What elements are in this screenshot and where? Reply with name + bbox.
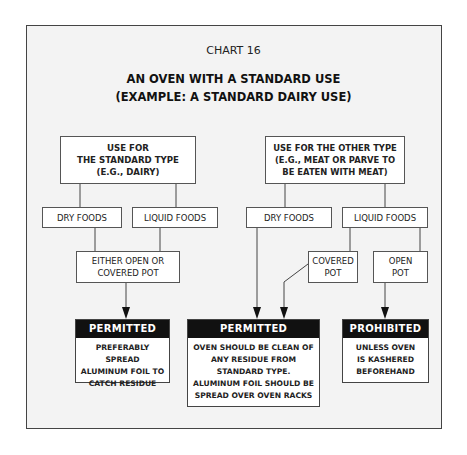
prohibited-note: UNLESS OVEN IS KASHERED BEFOREHAND	[343, 338, 428, 378]
prohibited-result: PROHIBITED UNLESS OVEN IS KASHERED BEFOR…	[342, 319, 429, 383]
arrow-head-icon	[381, 307, 389, 319]
right-liquid-foods-box: LIQUID FOODS	[342, 207, 428, 228]
permitted-note: PREFERABLY SPREAD ALUMINUM FOIL TO CATCH…	[76, 338, 169, 390]
prohibited-header: PROHIBITED	[343, 320, 428, 338]
either-pot-box: EITHER OPEN OR COVERED POT	[76, 251, 180, 283]
arrow-head-icon	[280, 307, 288, 319]
left-permitted-result: PERMITTED PREFERABLY SPREAD ALUMINUM FOI…	[75, 319, 170, 383]
right-permitted-result: PERMITTED OVEN SHOULD BE CLEAN OF ANY RE…	[187, 319, 320, 407]
permitted-note: OVEN SHOULD BE CLEAN OF ANY RESIDUE FROM…	[188, 338, 319, 402]
arrow-head-icon	[122, 307, 130, 319]
open-pot-box: OPEN POT	[373, 251, 428, 283]
permitted-header: PERMITTED	[188, 320, 319, 338]
left-liquid-foods-box: LIQUID FOODS	[132, 207, 218, 228]
covered-pot-box: COVERED POT	[308, 251, 358, 283]
right-dry-foods-box: DRY FOODS	[246, 207, 332, 228]
permitted-header: PERMITTED	[76, 320, 169, 338]
standard-type-box: USE FOR THE STANDARD TYPE (E.G., DAIRY)	[60, 136, 196, 184]
other-type-box: USE FOR THE OTHER TYPE (E.G., MEAT OR PA…	[265, 136, 405, 184]
left-dry-foods-box: DRY FOODS	[42, 207, 122, 228]
arrow-head-icon	[253, 307, 261, 319]
